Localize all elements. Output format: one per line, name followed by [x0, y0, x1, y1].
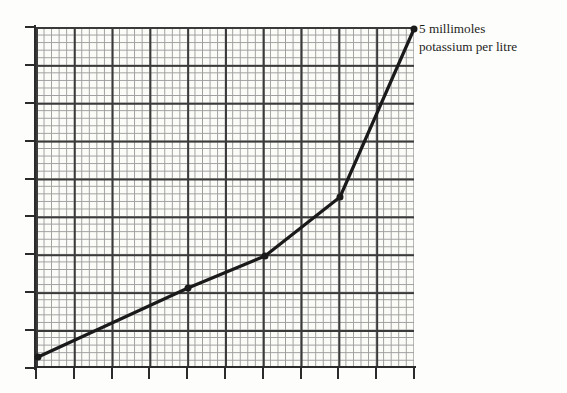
x-tick-2	[111, 368, 113, 379]
x-tick-5	[224, 368, 226, 379]
y-tick-2	[25, 102, 36, 104]
x-tick-10	[413, 368, 415, 379]
annotation-line-2: potassium per litre	[419, 38, 565, 56]
x-tick-8	[337, 368, 339, 379]
x-tick-9	[375, 368, 377, 379]
x-tick-6	[262, 368, 264, 379]
x-tick-0	[35, 368, 37, 379]
plot-area	[36, 27, 414, 368]
x-tick-4	[186, 368, 188, 379]
y-tick-5	[25, 215, 36, 217]
x-tick-1	[73, 368, 75, 379]
x-tick-3	[148, 368, 150, 379]
y-tick-3	[25, 140, 36, 142]
y-tick-7	[25, 291, 36, 293]
y-axis-line	[34, 25, 36, 370]
x-tick-7	[300, 368, 302, 379]
major-gridlines	[36, 27, 414, 368]
y-tick-1	[25, 64, 36, 66]
y-tick-6	[25, 253, 36, 255]
chart-screenshot: 5 millimoles potassium per litre	[0, 0, 567, 393]
annotation-line-1: 5 millimoles	[419, 20, 565, 38]
minor-gridlines	[36, 27, 414, 368]
y-tick-8	[25, 329, 36, 331]
y-tick-9	[25, 367, 36, 369]
y-tick-4	[25, 178, 36, 180]
y-tick-0	[25, 26, 36, 28]
annotation-label: 5 millimoles potassium per litre	[419, 20, 565, 56]
